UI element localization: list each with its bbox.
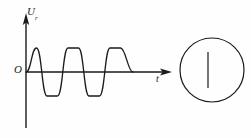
x-axis-label: t (156, 74, 159, 84)
y-axis-label: Ur (27, 6, 38, 20)
waveform-figure: Ur O t (0, 0, 251, 138)
y-axis-symbol: U (27, 5, 35, 17)
origin-label: O (14, 64, 22, 75)
y-axis-subscript: r (35, 14, 38, 22)
circle-icon (180, 38, 244, 102)
